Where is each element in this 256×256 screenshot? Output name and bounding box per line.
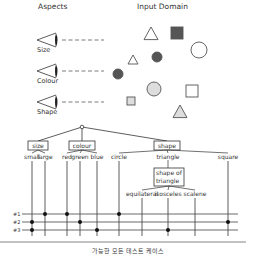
category-label: size <box>32 142 44 149</box>
aspect-colour: Colour <box>37 64 104 85</box>
tree-root-node <box>80 125 84 129</box>
eye-lens-icon <box>55 33 58 47</box>
circle-shape <box>147 82 161 96</box>
aspect-size: Size <box>37 33 104 54</box>
input-domain-shapes <box>113 27 207 118</box>
square-shape <box>171 27 183 39</box>
aspect-label: Shape <box>37 108 57 116</box>
sub-category-label-2: triangle <box>156 177 179 185</box>
circle-shape <box>152 52 162 62</box>
eye-lens-icon <box>55 64 58 78</box>
eye-icon <box>37 33 56 47</box>
test-case-label: #2 <box>13 219 20 225</box>
caption: 가능한 모든 테스트 케이스 <box>92 247 164 255</box>
sub-class-label-isosceles: isosceles <box>154 190 181 197</box>
class-label-circle: circle <box>111 153 127 160</box>
tree-edge <box>82 127 167 141</box>
category-label: shape <box>158 142 176 150</box>
input-domain-heading: Input Domain <box>137 2 188 11</box>
aspect-shape: Shape <box>37 95 104 116</box>
test-case-dot <box>117 212 121 216</box>
test-case-label: #3 <box>13 227 20 233</box>
sub-class-label-scalene: scalene <box>184 190 207 197</box>
test-case-dot <box>226 220 230 224</box>
classification-tree: sizecolourshapesmalllargeredgreenbluecir… <box>24 125 239 198</box>
test-case-dot <box>30 228 34 232</box>
sub-category-label-1: shape of <box>156 169 183 177</box>
test-case-label: #1 <box>13 211 20 217</box>
triangle-shape <box>173 105 187 118</box>
test-case-grid: #1#2#3 <box>13 161 238 236</box>
test-case-dot <box>95 228 99 232</box>
circle-shape <box>113 69 123 79</box>
aspects-group: SizeColourShape <box>37 33 104 116</box>
aspects-heading: Aspects <box>38 2 67 11</box>
aspect-label: Colour <box>37 77 58 85</box>
aspect-label: Size <box>37 46 50 54</box>
class-label-triangle: triangle <box>156 153 179 161</box>
test-case-dot <box>30 220 34 224</box>
triangle-shape <box>128 55 138 64</box>
square-shape <box>186 85 198 97</box>
square-shape <box>127 97 135 105</box>
category-label: colour <box>73 142 92 149</box>
eye-icon <box>37 95 56 109</box>
class-label-square: square <box>218 153 239 161</box>
class-label-large: large <box>37 153 53 161</box>
circle-shape <box>191 42 207 58</box>
test-case-dot <box>43 212 47 216</box>
eye-icon <box>37 64 56 78</box>
class-label-blue: blue <box>91 153 104 160</box>
test-case-dot <box>166 228 170 232</box>
tree-edge <box>38 127 82 141</box>
classification-tree-diagram: Aspects Input Domain SizeColourShape siz… <box>0 0 256 256</box>
test-case-dot <box>65 212 69 216</box>
triangle-shape <box>144 27 158 40</box>
class-label-green: green <box>71 153 89 161</box>
eye-lens-icon <box>55 95 58 109</box>
test-case-dot <box>78 220 82 224</box>
